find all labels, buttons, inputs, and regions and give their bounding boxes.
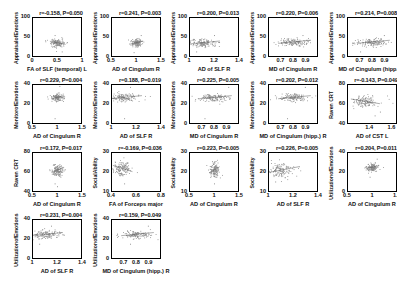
x-tick-label: 1: [266, 192, 269, 198]
scatter-panel: r=0.214, P=0.008AppraisalofEmotions05010…: [327, 10, 397, 78]
x-axis-label: MD of Cingulum R: [169, 133, 259, 139]
y-tick-label: 20: [18, 235, 30, 241]
x-axis-label: AD of Cingulum R: [12, 201, 102, 207]
scatter-points: [269, 18, 317, 56]
y-tick-label: 40: [175, 80, 187, 86]
x-tick-label: 0.9: [381, 57, 389, 63]
y-tick-label: 0: [18, 255, 30, 261]
y-tick-label: 100: [175, 13, 187, 19]
x-tick-label: 0.9: [302, 57, 310, 63]
x-axis-label: FA of Forceps major: [91, 201, 181, 207]
y-tick-label: 20: [97, 235, 109, 241]
x-axis-label: FA of SLF (temporal) L: [12, 66, 102, 72]
x-axis-label: AD of CST L: [327, 133, 397, 139]
x-tick-label: 0.8: [157, 192, 165, 198]
y-tick-label: 80: [18, 148, 30, 154]
x-tick-label: 0.9: [223, 124, 231, 130]
x-tick-label: 0.4: [107, 192, 115, 198]
y-tick-label: 60: [333, 100, 345, 106]
x-axis-label: AD of SLF R: [91, 133, 181, 139]
y-tick-label: 0: [254, 120, 266, 126]
panel-title: r=0.214, P=0.008: [341, 10, 397, 16]
scatter-panel: r=0.241, P=0.003AppraisalofEmotions05010…: [91, 10, 170, 78]
y-tick-label: 20: [18, 100, 30, 106]
panel-title: r=0.200, P=0.013: [183, 10, 253, 16]
x-tick-label: 1.2: [210, 57, 218, 63]
x-tick-label: 0.5: [53, 57, 61, 63]
x-tick-label: 1.6: [388, 124, 396, 130]
scatter-panel: r=-0.158, P=0.050AppraisalofEmotions0501…: [12, 10, 91, 78]
y-tick-label: 40: [97, 215, 109, 221]
plot-area: [189, 152, 239, 192]
panel-title: r=0.225, P=0.005: [183, 77, 253, 83]
plot-area: [111, 84, 161, 124]
panel-title: r=-0.169, P=0.036: [105, 145, 175, 151]
x-tick-label: 0.5: [28, 192, 36, 198]
x-tick-label: 1: [55, 192, 58, 198]
x-tick-label: 0.8: [289, 57, 297, 63]
panel-title: r=0.202, P=0.012: [262, 77, 332, 83]
y-tick-label: 100: [97, 13, 109, 19]
x-tick-label: 0: [30, 57, 33, 63]
y-tick-label: 40: [333, 120, 345, 126]
scatter-points: [33, 18, 81, 56]
plot-area: [268, 152, 318, 192]
x-tick-label: 1: [80, 57, 83, 63]
y-tick-label: 20: [254, 100, 266, 106]
y-tick-label: 40: [254, 80, 266, 86]
x-axis-label: AD of Cingulum R: [12, 133, 102, 139]
panel-title: r=0.229, P=0.004: [26, 77, 96, 83]
scatter-points: [190, 18, 238, 56]
x-tick-label: 1: [187, 57, 190, 63]
x-tick-label: 0.7: [198, 124, 206, 130]
scatter-points: [190, 85, 238, 123]
y-tick-label: 0: [254, 53, 266, 59]
x-tick-label: 0.5: [343, 192, 351, 198]
plot-area: [189, 17, 239, 57]
x-tick-label: 0.8: [368, 57, 376, 63]
y-tick-label: 100: [333, 13, 345, 19]
scatter-points: [33, 153, 81, 191]
scatter-points: [190, 153, 238, 191]
panel-title: r=0.188, P=0.019: [105, 77, 175, 83]
scatter-panel: r=0.220, P=0.006AppraisalofEmotions05010…: [248, 10, 327, 78]
x-tick-label: 1: [30, 259, 33, 265]
x-tick-label: 0.9: [302, 124, 310, 130]
scatter-panel: r=0.226, P=0.005SocialAbility10203011.21…: [248, 145, 327, 213]
x-tick-label: 1.4: [235, 57, 243, 63]
x-tick-label: 1.2: [289, 192, 297, 198]
scatter-points: [269, 85, 317, 123]
y-tick-label: 20: [97, 100, 109, 106]
scatter-points: [348, 18, 396, 56]
x-tick-label: 0.6: [132, 192, 140, 198]
scatter-panel: r=-0.143, P=0.049Raven CRT4060801.41.6AD…: [327, 77, 397, 145]
x-axis-label: AD of SLF R: [248, 201, 338, 207]
y-tick-label: 30: [97, 148, 109, 154]
y-tick-label: 20: [333, 168, 345, 174]
x-tick-label: 1.4: [157, 124, 165, 130]
y-tick-label: 0: [18, 53, 30, 59]
y-tick-label: 30: [254, 148, 266, 154]
y-tick-label: 30: [175, 148, 187, 154]
x-tick-label: 1.5: [78, 192, 86, 198]
scatter-panel: r=0.188, P=0.019MonitorofEmotions0204011…: [91, 77, 170, 145]
plot-area: [32, 219, 82, 259]
x-tick-label: 0.8: [210, 124, 218, 130]
x-tick-label: 1.2: [53, 259, 61, 265]
x-tick-label: 0.8: [289, 124, 297, 130]
plot-area: [32, 17, 82, 57]
x-axis-label: MD of Cingulum R: [248, 66, 338, 72]
x-tick-label: 1: [370, 192, 373, 198]
y-tick-label: 20: [175, 100, 187, 106]
plot-area: [111, 152, 161, 192]
y-tick-label: 0: [97, 120, 109, 126]
scatter-panel: r=0.172, P=0.017Raven CRT4060800.511.5AD…: [12, 145, 91, 213]
panel-title: r=0.223, P=0.005: [183, 145, 253, 151]
y-tick-label: 100: [18, 13, 30, 19]
panel-title: r=0.159, P=0.049: [105, 212, 175, 218]
y-tick-label: 100: [254, 13, 266, 19]
x-tick-label: 1: [212, 192, 215, 198]
plot-area: [347, 17, 397, 57]
y-tick-label: 0: [333, 53, 345, 59]
plot-area: [189, 84, 239, 124]
